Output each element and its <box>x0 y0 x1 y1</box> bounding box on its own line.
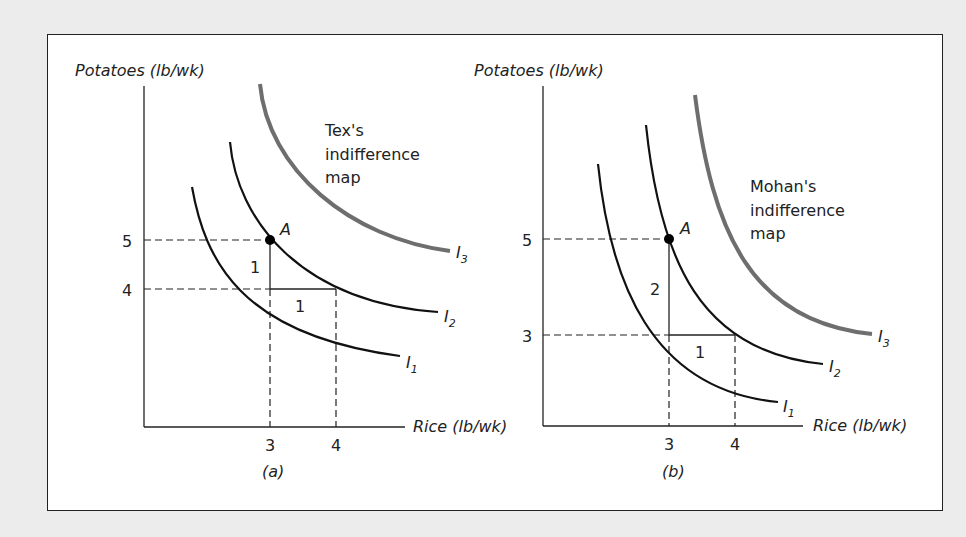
step-horizontal-label: 1 <box>295 297 305 316</box>
svg-text:Tex's: Tex's <box>324 121 364 140</box>
panel-b: Potatoes (lb/wk) Rice (lb/wk) A 5 3 3 4 … <box>474 61 907 481</box>
step-lines <box>669 239 735 335</box>
curve-labels: I1 I2 I3 <box>783 327 890 420</box>
x-tick-3: 3 <box>265 436 275 455</box>
map-annotation: Mohan's indifference map <box>750 177 845 243</box>
svg-text:indifference: indifference <box>325 145 420 164</box>
x-tick-4: 4 <box>331 436 341 455</box>
guide-lines <box>543 239 735 426</box>
point-a-label: A <box>679 219 691 238</box>
panel-label-b: (b) <box>662 462 685 481</box>
y-axis-label: Potatoes (lb/wk) <box>474 61 604 80</box>
step-horizontal-label: 1 <box>695 343 705 362</box>
svg-text:I2: I2 <box>829 357 841 380</box>
x-tick-4: 4 <box>730 435 740 454</box>
step-vertical-label: 2 <box>650 280 660 299</box>
svg-text:I1: I1 <box>783 397 795 420</box>
svg-text:Mohan's: Mohan's <box>750 177 816 196</box>
curve-i1 <box>192 187 400 356</box>
indifference-charts: Potatoes (lb/wk) Rice (lb/wk) A 5 4 3 4 … <box>0 0 966 537</box>
step-vertical-label: 1 <box>250 258 260 277</box>
svg-text:map: map <box>325 168 361 187</box>
svg-text:I3: I3 <box>878 327 890 350</box>
x-axis-label: Rice (lb/wk) <box>813 416 907 435</box>
svg-text:I2: I2 <box>444 307 456 330</box>
map-annotation: Tex's indifference map <box>324 121 420 187</box>
y-tick-5: 5 <box>122 232 132 251</box>
point-a <box>265 235 275 245</box>
panel-a: Potatoes (lb/wk) Rice (lb/wk) A 5 4 3 4 … <box>75 61 507 481</box>
y-tick-4: 4 <box>122 281 132 300</box>
point-a-label: A <box>279 220 291 239</box>
point-a <box>664 234 674 244</box>
y-axis-label: Potatoes (lb/wk) <box>75 61 205 80</box>
svg-text:indifference: indifference <box>750 201 845 220</box>
svg-text:I3: I3 <box>456 243 468 266</box>
svg-text:I1: I1 <box>406 353 418 376</box>
x-axis-label: Rice (lb/wk) <box>413 417 507 436</box>
x-tick-3: 3 <box>664 435 674 454</box>
y-tick-3: 3 <box>522 327 532 346</box>
panel-label-a: (a) <box>262 462 284 481</box>
y-tick-5: 5 <box>522 231 532 250</box>
svg-text:map: map <box>750 224 786 243</box>
